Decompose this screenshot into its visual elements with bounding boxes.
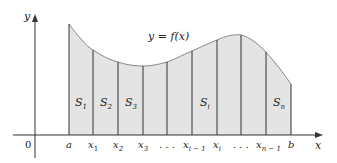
ellipsis-2: . . . [233,139,249,150]
point-x3: x3 [138,139,149,153]
point-b: b [288,139,294,150]
curve-label: y = f(x) [147,30,189,43]
ellipsis-1: . . . [159,139,175,150]
diagram-canvas: y y = f(x) x 0 a x1 x2 x3 . . . xi − 1 x… [0,0,337,163]
x-axis-label: x [315,139,322,152]
origin-label: 0 [25,139,31,150]
riemann-strips-diagram: y y = f(x) x 0 a x1 x2 x3 . . . xi − 1 x… [0,0,337,163]
point-xi: xi [213,139,221,153]
y-axis-label: y [23,10,31,23]
y-axis-arrow-icon [32,14,38,22]
point-xi-minus-1: xi − 1 [183,139,206,153]
x-axis-arrow-icon [315,132,323,138]
partition-labels: a x1 x2 x3 . . . xi − 1 xi . . . xn − 1 … [66,139,294,153]
point-a: a [66,139,72,150]
point-x1: x1 [88,139,98,153]
point-xn-minus-1: xn − 1 [256,139,281,153]
point-x2: x2 [113,139,124,153]
